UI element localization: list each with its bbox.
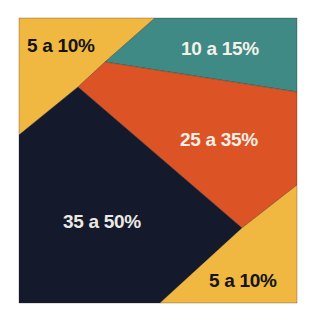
label-teal: 10 a 15%	[181, 38, 259, 59]
chart-regions	[19, 18, 297, 303]
mosaic-chart: 5 a 10% 10 a 15% 25 a 35% 35 a 50% 5 a 1…	[0, 0, 313, 326]
label-orange: 25 a 35%	[180, 129, 258, 150]
label-yellow-bottom-right: 5 a 10%	[209, 270, 277, 291]
label-yellow-top-left: 5 a 10%	[27, 35, 95, 56]
label-navy: 35 a 50%	[63, 211, 141, 232]
